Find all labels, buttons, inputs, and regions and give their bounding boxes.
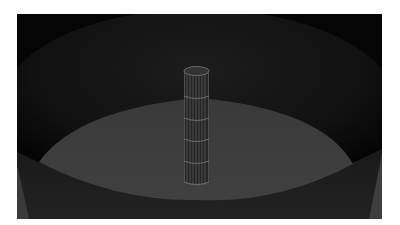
render-viewport (17, 14, 382, 219)
wireframe-cylinder (184, 67, 209, 187)
cylinder-top-cap (184, 67, 209, 76)
scene-render (17, 14, 382, 219)
